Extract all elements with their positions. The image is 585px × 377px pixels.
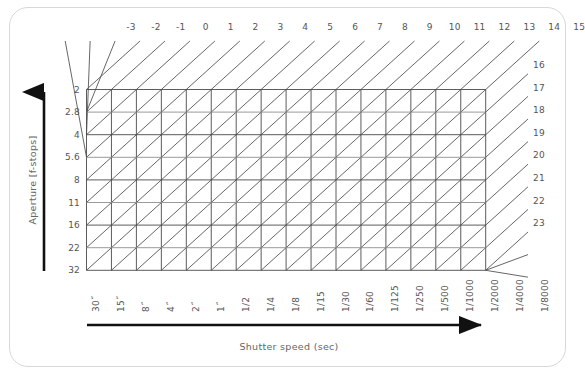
diagonal-label-top: 6 <box>352 22 358 32</box>
shutter-speed-tick-label: 8˝ <box>141 301 151 312</box>
shutter-speed-tick-label: 1˝ <box>216 301 226 312</box>
diagonal-label-right: 19 <box>533 128 545 138</box>
aperture-tick-label: 2.8 <box>65 107 80 117</box>
diagonal-label-top: 2 <box>253 22 259 32</box>
shutter-speed-tick-label: 1/250 <box>415 285 425 312</box>
shutter-speed-tick-label: 1/15 <box>316 291 326 312</box>
diagonal-label-top: 3 <box>277 22 283 32</box>
shutter-speed-tick-label: 1/125 <box>390 285 400 312</box>
shutter-speed-tick-label: 1/4 <box>266 297 276 312</box>
aperture-tick-label: 32 <box>68 265 80 275</box>
iso-ev-line <box>211 41 464 270</box>
shutter-speed-tick-label: 1/2 <box>241 297 251 312</box>
iso-ev-line <box>486 232 528 270</box>
grid-lines <box>87 90 486 271</box>
aperture-tick-label: 16 <box>68 220 80 230</box>
shutter-speed-tick-label: 1/30 <box>341 291 351 312</box>
iso-ev-line <box>87 41 315 248</box>
iso-ev-line <box>161 41 414 270</box>
iso-ev-line <box>461 209 528 270</box>
iso-ev-line <box>87 41 141 90</box>
diagonal-label-top: -3 <box>126 22 135 32</box>
iso-ev-line <box>436 187 528 271</box>
diagonal-label-right: 23 <box>533 218 545 228</box>
shutter-speed-tick-label: 1/500 <box>440 285 450 312</box>
diagonal-label-top: 1 <box>228 22 234 32</box>
iso-ev-line <box>87 41 240 180</box>
shutter-speed-tick-label: 1/2000 <box>490 279 500 312</box>
shutter-speed-tick-label: 4˝ <box>166 301 176 312</box>
iso-ev-line <box>486 270 528 277</box>
diagonal-label-top: -1 <box>176 22 185 32</box>
iso-ev-line <box>186 41 439 270</box>
diagonal-label-right: 16 <box>533 60 545 70</box>
iso-ev-line <box>87 41 290 225</box>
y-axis-title: Aperture [f-stops] <box>27 135 38 224</box>
diagonal-label-top: 8 <box>402 22 408 32</box>
diagonal-label-right: 18 <box>533 105 545 115</box>
diagonal-label-top: 0 <box>203 22 209 32</box>
iso-ev-line <box>236 41 489 270</box>
shutter-speed-tick-label: 1/1000 <box>465 279 475 312</box>
diagonal-label-right: 22 <box>533 196 545 206</box>
aperture-tick-label: 11 <box>68 198 80 208</box>
shutter-speed-tick-label: 1/8 <box>291 297 301 312</box>
aperture-tick-label: 8 <box>74 175 80 185</box>
iso-ev-line <box>311 74 528 271</box>
iso-ev-line <box>261 41 514 270</box>
iso-ev-line <box>87 41 215 157</box>
diagonal-label-top: 9 <box>427 22 433 32</box>
x-axis-title: Shutter speed (sec) <box>239 341 338 352</box>
aperture-tick-label: 22 <box>68 243 80 253</box>
diagonal-label-top: 14 <box>548 22 560 32</box>
iso-ev-line <box>136 41 389 270</box>
diagonal-label-top: 10 <box>449 22 461 32</box>
iso-ev-line <box>486 255 528 271</box>
shutter-speed-tick-label: 1/60 <box>365 291 375 312</box>
iso-ev-line <box>286 41 539 270</box>
shutter-speed-tick-label: 1/4000 <box>515 279 525 312</box>
iso-ev-line <box>65 41 86 157</box>
diagonal-label-top: 7 <box>377 22 383 32</box>
shutter-speed-tick-label: 2˝ <box>191 301 201 312</box>
diagonal-label-top: 13 <box>523 22 535 32</box>
iso-ev-line <box>87 41 190 135</box>
shutter-speed-tick-label: 30˝ <box>91 295 101 312</box>
iso-ev-line <box>336 96 528 270</box>
diagonal-label-top: 11 <box>474 22 486 32</box>
iso-ev-line <box>87 41 340 270</box>
shutter-speed-tick-label: 15˝ <box>116 295 126 312</box>
diagonal-label-top: 5 <box>327 22 333 32</box>
diagonal-label-right: 21 <box>533 173 545 183</box>
diagonal-label-top: 4 <box>302 22 308 32</box>
diagonal-label-top: 12 <box>499 22 511 32</box>
diagonal-label-right: 20 <box>533 150 545 160</box>
iso-ev-line <box>87 41 116 112</box>
diagonal-label-top: 15 <box>573 22 585 32</box>
aperture-tick-label: 5.6 <box>65 152 80 162</box>
iso-ev-line <box>87 41 165 112</box>
iso-ev-line <box>87 41 91 135</box>
iso-ev-line <box>111 41 364 270</box>
aperture-tick-label: 2 <box>74 85 80 95</box>
shutter-speed-tick-label: 1/8000 <box>540 279 550 312</box>
aperture-tick-label: 4 <box>74 130 80 140</box>
diagonal-label-right: 17 <box>533 83 545 93</box>
diagonal-label-top: -2 <box>151 22 160 32</box>
